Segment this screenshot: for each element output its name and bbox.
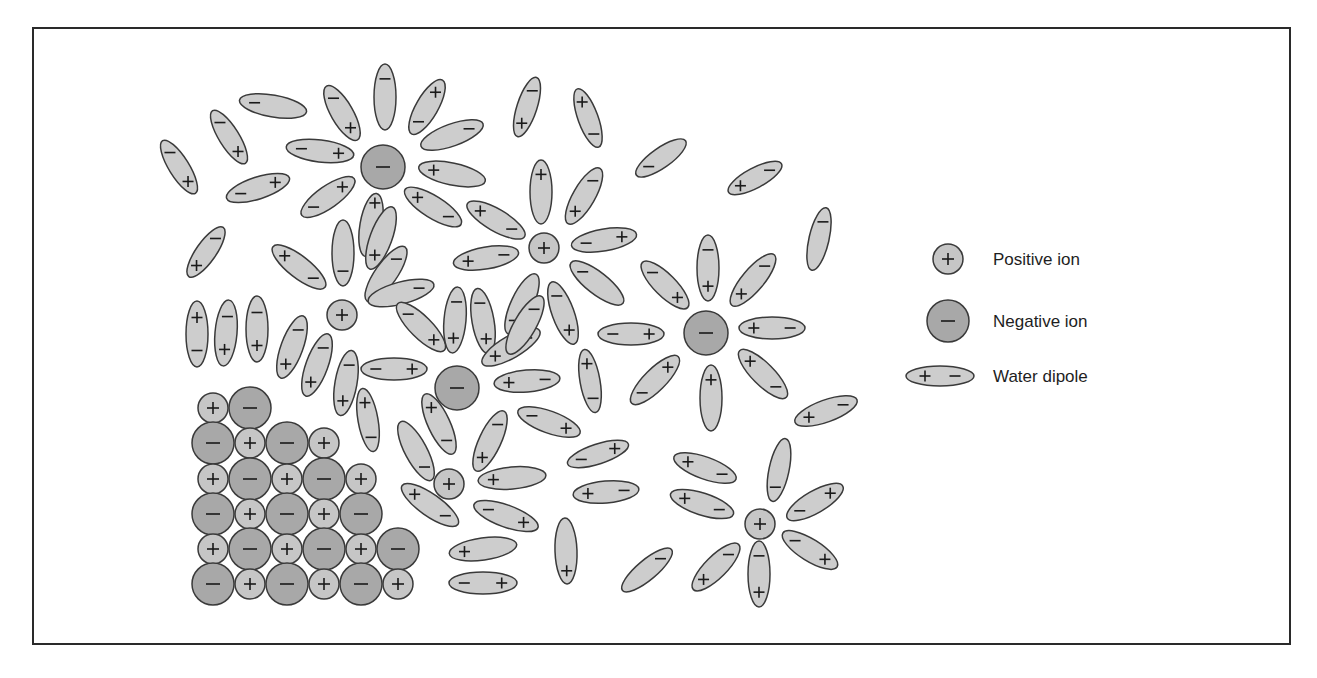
water-dipole [223,167,293,208]
water-dipole [564,254,630,312]
legend: Positive ion Negative ion Water dipole [906,244,1088,386]
water-dipole [748,541,770,607]
water-dipole [204,105,254,168]
water-dipole [186,301,208,367]
lattice-negative-ion [192,563,234,605]
water-dipole [390,296,452,358]
lattice-negative-ion [229,387,271,429]
water-dipole [782,476,848,527]
water-dipole [598,323,664,345]
water-dipole [724,155,786,201]
lattice-negative-ion [266,493,308,535]
water-dipole [452,241,521,274]
water-dipole [530,160,552,224]
lattice-negative-ion [229,528,271,570]
legend-positive-ion [933,244,963,274]
lattice-negative-ion [303,528,345,570]
lattice-positive-ion [272,464,302,494]
water-dipole [246,296,268,362]
water-dipole [739,317,805,339]
positive-ion [745,509,775,539]
legend-label-water-dipole: Water dipole [993,367,1088,386]
water-dipole [554,518,578,585]
water-dipole [631,133,692,184]
water-dipole [266,238,332,296]
positive-ion [434,469,464,499]
water-dipole [493,367,561,395]
lattice-negative-ion [266,422,308,464]
negative-ion [435,366,479,410]
lattice-positive-ion [309,499,339,529]
lattice-positive-ion [272,534,302,564]
water-dipole [374,64,396,130]
water-dipole [462,194,530,246]
water-dipole [353,387,384,454]
positive-ion [327,300,357,330]
water-dipole [295,170,360,225]
legend-item-negative-ion: Negative ion [927,300,1088,342]
lattice-positive-ion [198,534,228,564]
lattice-positive-ion [235,499,265,529]
lattice-positive-ion [309,428,339,458]
water-dipole-icon [906,366,974,386]
lattice-positive-ion [346,464,376,494]
water-dipole [624,349,686,411]
water-dipole [777,524,843,577]
water-dipole [154,135,204,198]
lattice-positive-ion [309,569,339,599]
lattice-positive-ion [198,393,228,423]
water-dipole [568,85,608,150]
water-dipole [449,572,517,594]
water-dipole [416,156,487,192]
lattice-negative-ion [192,493,234,535]
water-dipole [572,478,640,506]
water-dipole [541,278,584,348]
lattice-positive-ion [383,569,413,599]
water-dipole [477,464,547,492]
water-dipole [575,348,606,415]
lattice-positive-ion [198,464,228,494]
negative-ion-icon [927,300,969,342]
lattice-positive-ion [346,534,376,564]
lattice-negative-ion [266,563,308,605]
lattice-negative-ion [303,458,345,500]
water-dipole [470,494,541,538]
lattice-negative-ion [340,493,382,535]
water-dipole [514,400,584,443]
lattice-positive-ion [235,428,265,458]
negative-ion [361,145,405,189]
water-dipole [399,180,467,234]
water-dipole [763,437,796,504]
water-dipole [635,255,696,316]
water-dipole [441,286,469,354]
water-dipole [285,136,355,166]
lattice-negative-ion [192,422,234,464]
water-dipole [616,542,678,598]
water-dipole [697,235,719,301]
water-dipole [570,223,639,256]
lattice-negative-ion [340,563,382,605]
water-dipole [667,483,737,524]
positive-ion-icon [933,244,963,274]
water-dipole [723,248,782,313]
water-dipole [802,206,836,273]
water-dipole [466,406,514,475]
water-dipole [564,435,631,474]
water-dipole [558,163,609,229]
lattice-negative-ion [229,458,271,500]
water-dipole [332,220,354,286]
water-dipole [732,343,794,405]
lattice-negative-ion [377,528,419,570]
water-dipole [212,299,240,367]
water-dipole [508,74,546,139]
water-dipole [700,365,722,431]
lattice-positive-ion [235,569,265,599]
water-dipole [448,533,518,564]
water-dipole [181,222,232,283]
legend-item-water-dipole: Water dipole [906,366,1088,386]
water-dipole [361,358,427,380]
legend-label-negative-ion: Negative ion [993,312,1088,331]
negative-ion [684,311,728,355]
legend-label-positive-ion: Positive ion [993,250,1080,269]
water-dipole [686,537,747,598]
